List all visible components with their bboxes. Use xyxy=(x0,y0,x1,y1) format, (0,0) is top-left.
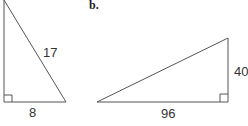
triangle-a-base-label: 8 xyxy=(29,105,36,120)
triangle-a-hypotenuse-label: 17 xyxy=(43,45,57,60)
triangle-b-base-label: 96 xyxy=(161,106,175,121)
triangle-a-right-angle-marker xyxy=(4,95,12,102)
part-label: b. xyxy=(89,0,99,12)
triangle-a: 17 8 xyxy=(4,0,66,120)
triangle-b: 40 96 xyxy=(97,38,248,121)
triangle-b-height-label: 40 xyxy=(234,64,248,79)
triangle-b-right-angle-marker xyxy=(220,94,228,102)
triangle-b-hypotenuse xyxy=(97,38,228,102)
diagram: 17 8 b. 40 96 xyxy=(0,0,248,126)
